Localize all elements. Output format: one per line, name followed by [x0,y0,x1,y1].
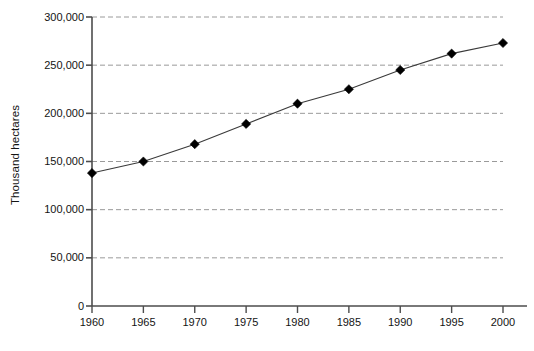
gridlines [92,17,503,258]
data-point-marker [293,99,302,108]
data-point-marker [396,65,405,74]
data-point-marker [87,168,96,177]
y-axis-ticks [86,17,92,306]
x-axis-ticks [92,306,503,313]
data-point-markers [87,38,507,177]
data-point-marker [242,119,251,128]
data-point-marker [447,49,456,58]
data-point-marker [190,140,199,149]
data-point-marker [498,38,507,47]
line-chart: Thousand hectares 050,000100,000150,0002… [0,0,534,351]
data-point-marker [139,157,148,166]
data-point-marker [344,85,353,94]
plot-area [0,0,534,351]
